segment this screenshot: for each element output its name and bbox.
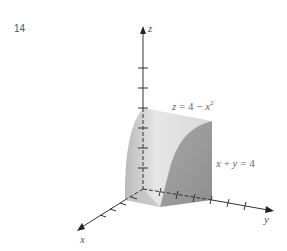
eq-const: 4 bbox=[188, 100, 194, 112]
eq-var-z: z bbox=[172, 100, 176, 112]
plane-var-x: x bbox=[216, 157, 221, 169]
z-axis-label: z bbox=[148, 22, 152, 34]
x-axis-arrow-icon bbox=[77, 223, 85, 231]
plane-equals: = bbox=[240, 157, 246, 169]
x-axis bbox=[82, 200, 125, 227]
z-axis-arrow-icon bbox=[140, 26, 146, 34]
y-axis bbox=[212, 200, 268, 210]
y-axis-label: y bbox=[264, 213, 269, 225]
solid-region-diagram bbox=[0, 0, 287, 251]
x-axis-label: x bbox=[80, 233, 85, 245]
plane-const: 4 bbox=[249, 157, 255, 169]
plane-equation-label: x + y = 4 bbox=[216, 157, 255, 169]
surface-equation-label: z = 4 − x2 bbox=[172, 99, 214, 112]
eq-equals: = bbox=[179, 100, 185, 112]
plane-var-y: y bbox=[233, 157, 238, 169]
eq-minus: − bbox=[196, 100, 202, 112]
plane-plus: + bbox=[224, 157, 230, 169]
eq-exponent: 2 bbox=[210, 99, 214, 107]
y-axis-arrow-icon bbox=[265, 206, 274, 213]
